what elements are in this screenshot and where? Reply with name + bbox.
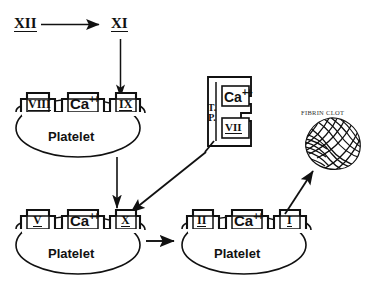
platelet-1-calcium-text: Ca (70, 95, 89, 112)
platelet-1-calcium-charge: ++ (89, 94, 99, 105)
platelet-3-slot-ii-label: II (197, 214, 206, 227)
platelet-2-slot-x-label: X (121, 214, 130, 227)
diagram-canvas: XII XI VIII Ca++ IX Platelet T. P. Ca++ … (0, 0, 372, 290)
tissue-complex-tp-label: T. P. (206, 103, 218, 123)
platelet-1-slot-ix-label: IX (119, 98, 132, 111)
platelet-2-calcium-label: Ca++ (70, 212, 99, 228)
arrow-platelet3-to-clot (285, 171, 313, 214)
platelet-1-slot-viii-label: VIII (28, 98, 51, 111)
tissue-complex-calcium-label: Ca++ (224, 88, 252, 104)
tissue-complex-calcium-text: Ca (224, 89, 242, 105)
platelet-2-calcium-text: Ca (70, 212, 89, 229)
platelet-3-calcium-charge: ++ (253, 211, 263, 222)
platelet-1-calcium-label: Ca++ (70, 95, 99, 111)
platelet-3-calcium-label: Ca++ (234, 212, 263, 228)
tp-line-2: P. (206, 113, 218, 123)
platelet-2-slot-v-label: V (33, 214, 42, 227)
arrow-tissue-complex-to-x (131, 152, 206, 212)
platelet-1-surface-label: Platelet (48, 130, 94, 143)
fibrin-clot-label: FIBRIN CLOT (301, 110, 344, 117)
tissue-complex-factor-vii-label: VII (225, 122, 242, 134)
platelet-2-calcium-charge: ++ (89, 211, 99, 222)
platelet-3-surface-label: Platelet (214, 247, 260, 260)
platelet-2-surface-label: Platelet (48, 247, 94, 260)
factor-xi-label: XI (111, 16, 128, 32)
platelet-3-slot-i-label: I (287, 214, 292, 227)
tissue-complex-calcium-charge: ++ (242, 87, 252, 98)
platelet-3-calcium-text: Ca (234, 212, 253, 229)
fibrin-clot-shape (295, 109, 369, 177)
factor-xii-label: XII (14, 16, 37, 32)
